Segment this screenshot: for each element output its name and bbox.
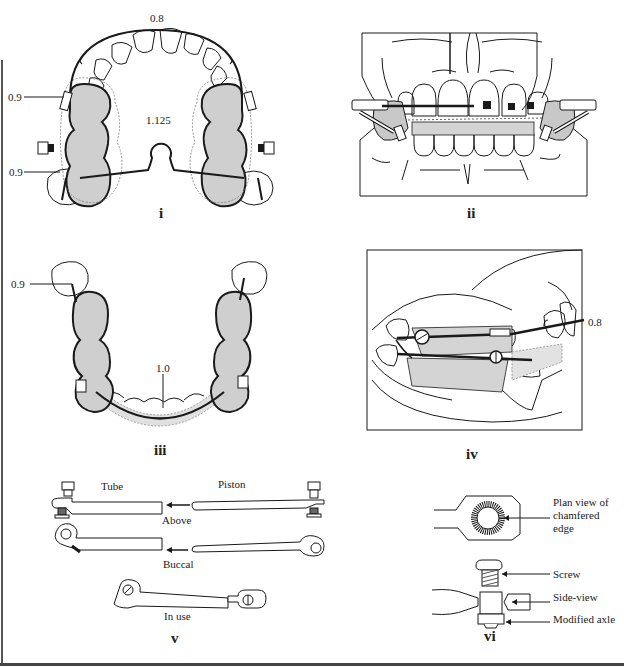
lateral-view-illustration [312, 230, 624, 460]
label-plan-view-chamfered-edge: Plan view of chamfered edge [553, 496, 609, 535]
label-clasp-0-9: 0.9 [11, 278, 25, 290]
label-upper-clasp-0-9: 0.9 [8, 91, 22, 103]
label-side-view: Side-view [553, 591, 598, 603]
label-modified-axle: Modified axle [553, 613, 615, 625]
panel-numeral-v: v [171, 630, 179, 647]
panel-iv-lateral-view: 0.8 iv [312, 230, 624, 460]
panel-numeral-vi: vi [484, 628, 496, 645]
label-plan-view-line-1: Plan view of [553, 496, 609, 509]
label-lingual-bar-1-0: 1.0 [156, 362, 170, 374]
panel-i-upper-arch: 0.8 1.125 0.9 0.9 i [0, 0, 312, 230]
panel-vi-screw-axle: Plan view of chamfered edge Screw Side-v… [400, 460, 624, 660]
label-above: Above [162, 514, 191, 526]
lower-arch-illustration [0, 230, 312, 460]
label-screw: Screw [553, 568, 581, 580]
panel-v-tube-piston: Tube Piston Above Buccal In use v [0, 460, 360, 660]
screw-axle-illustration [400, 460, 624, 660]
panel-iii-lower-arch: 0.9 1.0 iii [0, 230, 312, 460]
panel-numeral-iii: iii [154, 442, 167, 459]
label-buccal: Buccal [163, 558, 194, 570]
label-labial-wire-0-8: 0.8 [150, 12, 164, 24]
label-tube: Tube [101, 480, 123, 492]
panel-numeral-i: i [159, 205, 163, 222]
panel-numeral-ii: ii [467, 205, 475, 222]
panel-ii-frontal-view: ii [312, 0, 624, 230]
label-labial-wire-0-8: 0.8 [588, 316, 602, 328]
label-palatal-1-125: 1.125 [146, 114, 171, 126]
figure-frame-bottom [0, 663, 624, 666]
label-plan-view-line-2: chamfered [553, 509, 609, 522]
frontal-view-illustration [312, 0, 624, 230]
label-plan-view-line-3: edge [553, 522, 609, 535]
label-piston: Piston [218, 478, 246, 490]
label-in-use: In use [164, 610, 191, 622]
label-lower-clasp-0-9: 0.9 [9, 166, 23, 178]
